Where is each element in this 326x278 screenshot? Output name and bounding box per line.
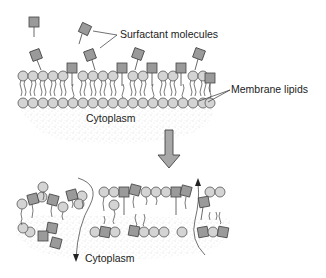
- surfactant-label: Surfactant molecules: [120, 28, 218, 40]
- lipid-tails: [20, 80, 211, 98]
- cytoplasm-label-bottom: Cytoplasm: [85, 252, 135, 264]
- lipid-bilayer-inner-leaflet: [18, 98, 215, 108]
- membrane-lipids-label: Membrane lipids: [231, 83, 308, 95]
- surfactant-callout: Surfactant molecules: [93, 28, 218, 48]
- membrane-lipids-callout: Membrane lipids: [199, 83, 308, 102]
- disrupted-membrane-right: [197, 187, 229, 238]
- membrane-disruption-diagram: Surfactant molecules Membrane lipids Cyt…: [0, 0, 326, 278]
- cytoplasm-label-top: Cytoplasm: [86, 112, 136, 124]
- free-surfactants: [29, 17, 205, 70]
